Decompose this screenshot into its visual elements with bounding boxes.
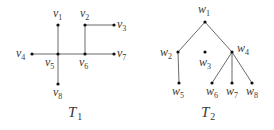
node-label-v2: v2 xyxy=(80,6,89,22)
edge-w2-w5 xyxy=(178,52,179,83)
node-label-subscript: 5 xyxy=(180,91,184,100)
node-v7 xyxy=(112,52,115,55)
edges-layer xyxy=(32,22,252,84)
node-label-subscript: 6 xyxy=(84,62,88,71)
node-label-subscript: 7 xyxy=(122,53,126,62)
node-v3 xyxy=(112,23,115,26)
labels-layer: v1v2v3v4v5v6v7v8w1w2w3w4w5w6w7w8 xyxy=(16,2,258,101)
node-label-letter: w xyxy=(172,84,180,98)
nodes-layer xyxy=(30,20,253,85)
graph-title-subscript: 2 xyxy=(210,111,215,122)
node-label-w6: w6 xyxy=(206,84,218,100)
edge-w1-w4 xyxy=(205,22,232,52)
node-label-v7: v7 xyxy=(117,46,126,62)
node-label-subscript: 3 xyxy=(122,24,126,33)
node-label-subscript: 8 xyxy=(254,91,258,100)
node-label-subscript: 1 xyxy=(58,13,62,22)
node-label-letter: w xyxy=(237,41,245,55)
node-label-subscript: 2 xyxy=(168,52,172,61)
node-label-letter: w xyxy=(246,84,254,98)
node-label-subscript: 4 xyxy=(21,53,25,62)
node-v4 xyxy=(30,52,33,55)
node-label-letter: w xyxy=(198,2,206,16)
node-label-w7: w7 xyxy=(226,84,238,100)
node-label-subscript: 1 xyxy=(206,9,210,18)
node-w4 xyxy=(230,50,233,53)
node-v1 xyxy=(56,23,59,26)
node-label-w4: w4 xyxy=(237,41,249,57)
node-label-w1: w1 xyxy=(198,2,210,18)
titles-layer: T1T2 xyxy=(68,104,215,122)
node-label-subscript: 4 xyxy=(245,48,249,57)
graph-title-T1: T1 xyxy=(68,104,82,122)
node-v5 xyxy=(56,52,59,55)
node-label-subscript: 5 xyxy=(50,62,54,71)
node-label-letter: w xyxy=(206,84,214,98)
node-label-w3: w3 xyxy=(199,55,211,71)
graph-title-subscript: 1 xyxy=(77,111,82,122)
node-w2 xyxy=(176,50,179,53)
node-label-subscript: 2 xyxy=(85,13,89,22)
node-label-w2: w2 xyxy=(160,45,172,61)
edge-w4-w6 xyxy=(212,52,232,83)
node-label-v8: v8 xyxy=(53,85,62,101)
node-label-subscript: 8 xyxy=(58,92,62,101)
node-label-letter: w xyxy=(199,55,207,69)
node-w3 xyxy=(203,50,206,53)
node-v2 xyxy=(83,23,86,26)
node-label-letter: w xyxy=(226,84,234,98)
node-label-v6: v6 xyxy=(79,55,88,71)
node-label-v3: v3 xyxy=(117,17,126,33)
node-label-subscript: 6 xyxy=(214,91,218,100)
node-label-letter: w xyxy=(160,45,168,59)
node-label-subscript: 3 xyxy=(207,62,211,71)
node-w1 xyxy=(203,20,206,23)
node-label-w5: w5 xyxy=(172,84,184,100)
edge-w1-w2 xyxy=(178,22,205,52)
graph-diagram: v1v2v3v4v5v6v7v8w1w2w3w4w5w6w7w8 T1T2 xyxy=(0,0,274,130)
node-label-v5: v5 xyxy=(45,55,54,71)
node-label-w8: w8 xyxy=(246,84,258,100)
node-label-v1: v1 xyxy=(53,6,62,22)
graph-title-T2: T2 xyxy=(201,104,215,122)
node-label-v4: v4 xyxy=(16,46,25,62)
node-label-subscript: 7 xyxy=(234,91,238,100)
